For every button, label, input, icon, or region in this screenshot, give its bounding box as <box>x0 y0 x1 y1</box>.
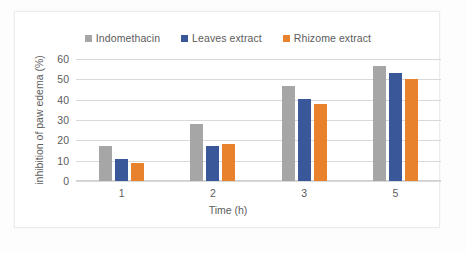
bar-indomethacin <box>373 66 386 181</box>
bar-rhizome-extract <box>405 79 418 181</box>
gridline <box>76 181 441 182</box>
bar-series-container: 1235 <box>76 59 441 181</box>
bar-rhizome-extract <box>131 163 144 181</box>
legend-item-rhizome-extract: Rhizome extract <box>283 32 371 44</box>
x-axis-title: Time (h) <box>15 204 441 216</box>
plot-area: 6050403020100 1235 <box>76 59 441 181</box>
chart-legend: Indomethacin Leaves extract Rhizome extr… <box>15 32 441 44</box>
x-axis-category-label: 3 <box>259 187 350 199</box>
bar-group: 3 <box>259 59 350 181</box>
scanned-page-background: Indomethacin Leaves extract Rhizome extr… <box>0 0 467 253</box>
bar-indomethacin <box>190 124 203 181</box>
legend-swatch-icon <box>283 35 290 42</box>
legend-label: Rhizome extract <box>294 32 371 44</box>
bar-indomethacin <box>282 86 295 181</box>
bar-leaves-extract <box>115 159 128 181</box>
legend-swatch-icon <box>181 35 188 42</box>
bar-group: 1 <box>76 59 167 181</box>
bar-leaves-extract <box>389 73 402 181</box>
y-axis-tick-label: 10 <box>29 155 69 167</box>
chart-figure: Indomethacin Leaves extract Rhizome extr… <box>14 11 440 228</box>
legend-swatch-icon <box>85 35 92 42</box>
bar-rhizome-extract <box>314 104 327 181</box>
y-axis-tick-label: 50 <box>29 73 69 85</box>
legend-item-leaves-extract: Leaves extract <box>181 32 262 44</box>
x-axis-category-label: 2 <box>167 187 258 199</box>
legend-item-indomethacin: Indomethacin <box>85 32 160 44</box>
y-axis-tick-label: 40 <box>29 94 69 106</box>
legend-label: Indomethacin <box>96 32 160 44</box>
y-axis-tick-label: 60 <box>29 53 69 65</box>
legend-label: Leaves extract <box>192 32 262 44</box>
bar-indomethacin <box>99 146 112 181</box>
bar-leaves-extract <box>206 146 219 181</box>
y-axis-tick-label: 0 <box>29 175 69 187</box>
bar-rhizome-extract <box>222 144 235 181</box>
bar-leaves-extract <box>298 99 311 181</box>
bar-group: 5 <box>350 59 441 181</box>
y-axis-tick-label: 20 <box>29 134 69 146</box>
x-axis-category-label: 5 <box>350 187 441 199</box>
y-axis-tick-label: 30 <box>29 114 69 126</box>
bar-group: 2 <box>167 59 258 181</box>
x-axis-category-label: 1 <box>76 187 167 199</box>
